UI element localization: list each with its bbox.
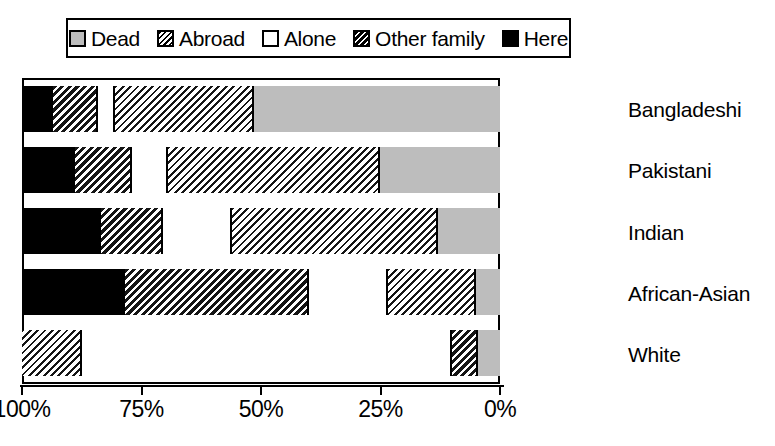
legend-item-other-family: Other family [353, 28, 485, 49]
x-axis-tick [380, 386, 382, 395]
x-axis-tick-label: 25% [358, 398, 403, 421]
x-axis-tick [141, 386, 143, 395]
bar-african-asian [22, 269, 500, 315]
x-axis-tick-label: 0% [484, 398, 516, 421]
bar-segment-alone [98, 86, 115, 132]
legend-swatch-icon [69, 30, 86, 47]
legend-item-label: Alone [284, 28, 336, 49]
legend-swatch-icon [353, 30, 370, 47]
bar-bangladeshi [22, 86, 500, 132]
category-label-pakistani: Pakistani [628, 160, 711, 181]
category-label-indian: Indian [628, 222, 684, 243]
plot-area [22, 78, 500, 384]
bar-segment-other-family [125, 269, 309, 315]
bar-segment-dead [478, 330, 500, 376]
bar-segment-alone [309, 269, 388, 315]
bar-segment-abroad [115, 86, 254, 132]
x-axis-tick [499, 386, 501, 395]
bar-segment-abroad [232, 208, 438, 254]
category-label-african-asian: African-Asian [628, 283, 750, 304]
legend-item-label: Here [524, 28, 568, 49]
bar-segment-other-family [101, 208, 163, 254]
bar-segment-dead [380, 147, 500, 193]
legend-item-label: Abroad [179, 28, 245, 49]
bar-segment-alone [132, 147, 168, 193]
bar-segment-here [22, 269, 125, 315]
chart-legend: DeadAbroadAloneOther familyHere [66, 18, 571, 58]
bar-segment-other-family [75, 147, 132, 193]
bar-segment-here [22, 208, 101, 254]
x-axis-tick-label: 50% [239, 398, 284, 421]
bar-segment-abroad [168, 147, 381, 193]
legend-item-label: Dead [91, 28, 140, 49]
category-label-bangladeshi: Bangladeshi [628, 99, 741, 120]
legend-item-here: Here [502, 28, 568, 49]
category-label-white: White [628, 344, 681, 365]
bar-segment-other-family [452, 330, 478, 376]
bar-segment-alone [163, 208, 232, 254]
bar-segment-abroad [22, 330, 82, 376]
legend-swatch-icon [157, 30, 174, 47]
bar-indian [22, 208, 500, 254]
legend-swatch-icon [262, 30, 279, 47]
legend-item-label: Other family [375, 28, 485, 49]
bar-segment-abroad [388, 269, 476, 315]
x-axis-tick [260, 386, 262, 395]
legend-item-abroad: Abroad [157, 28, 245, 49]
bar-segment-dead [476, 269, 500, 315]
bar-segment-here [22, 147, 75, 193]
bar-segment-alone [82, 330, 452, 376]
bar-segment-dead [254, 86, 500, 132]
bar-segment-here [22, 86, 53, 132]
x-axis-tick-label: 75% [119, 398, 164, 421]
legend-swatch-icon [502, 30, 519, 47]
legend-item-alone: Alone [262, 28, 336, 49]
x-axis-tick [21, 386, 23, 395]
legend-item-dead: Dead [69, 28, 140, 49]
x-axis-tick-label: 100% [0, 398, 50, 421]
bar-pakistani [22, 147, 500, 193]
x-axis-line [20, 385, 504, 387]
bar-white [22, 330, 500, 376]
bar-segment-dead [438, 208, 500, 254]
bar-segment-other-family [53, 86, 98, 132]
